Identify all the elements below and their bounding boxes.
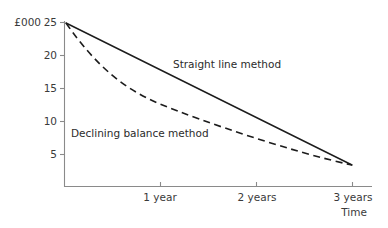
y-axis-caption: £000 <box>14 16 41 28</box>
x-axis-caption: Time <box>340 206 367 218</box>
y-tick-label-20: 20 <box>44 49 57 61</box>
annotation-declining-balance-method: Declining balance method <box>71 127 209 139</box>
series-straight-line-method <box>66 23 352 165</box>
y-tick-label-5: 5 <box>50 148 57 160</box>
y-tick-label-10: 10 <box>44 115 57 127</box>
chart-canvas: 25 20 15 10 5 £000 1 year 2 years 3 year… <box>0 0 388 228</box>
y-tick-label-25: 25 <box>44 16 57 28</box>
annotation-straight-line-method: Straight line method <box>173 58 281 70</box>
x-tick-label-1-year: 1 year <box>143 191 177 203</box>
x-tick-label-2-years: 2 years <box>238 191 277 203</box>
x-tick-label-3-years: 3 years <box>334 191 373 203</box>
depreciation-chart: 25 20 15 10 5 £000 1 year 2 years 3 year… <box>0 0 388 228</box>
y-tick-label-15: 15 <box>44 82 57 94</box>
